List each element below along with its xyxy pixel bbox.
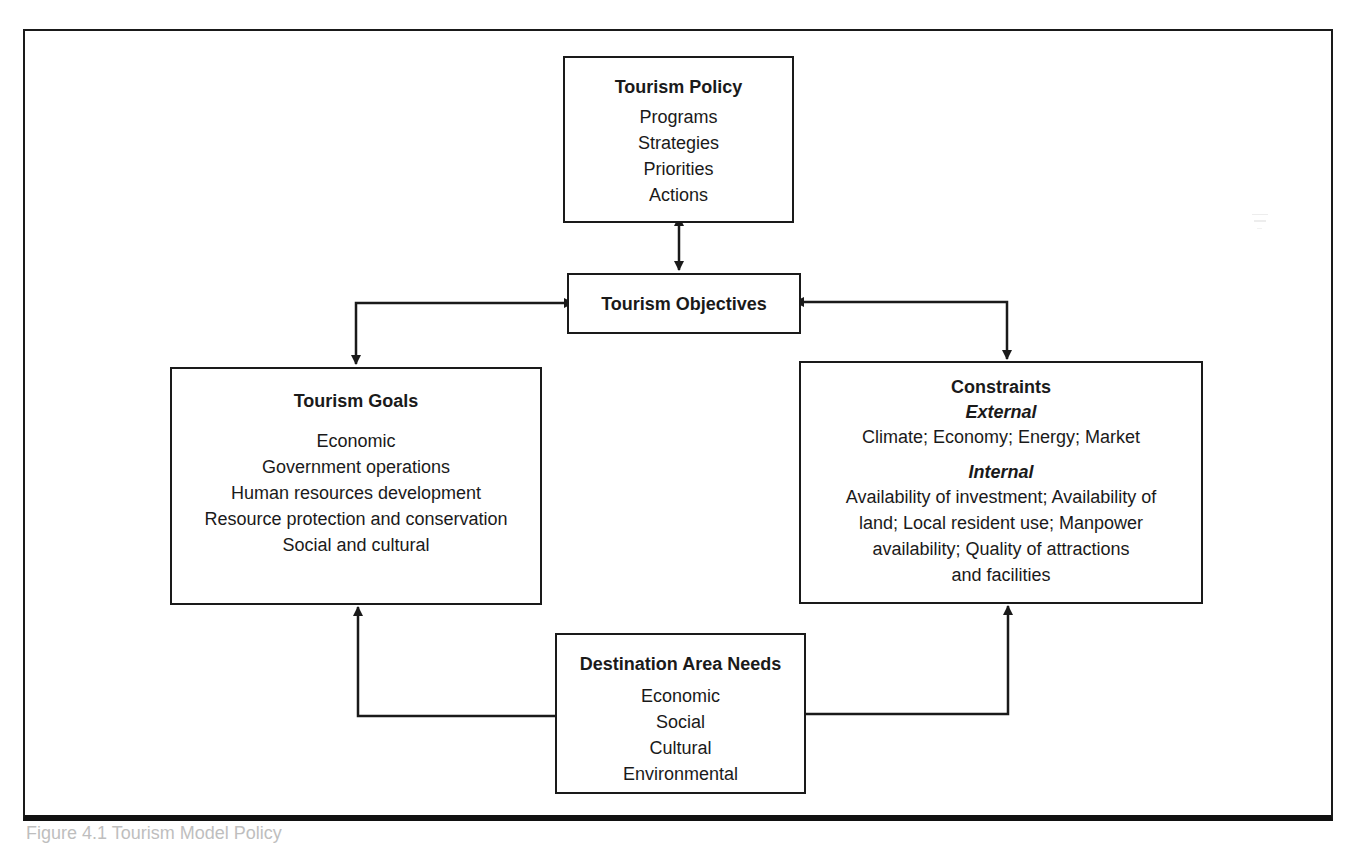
- policy-item: Strategies: [565, 130, 792, 156]
- constraints-box: Constraints External Climate; Economy; E…: [799, 361, 1203, 604]
- tourism-objectives-box: Tourism Objectives: [567, 273, 801, 334]
- needs-item: Environmental: [557, 761, 804, 787]
- needs-item: Social: [557, 709, 804, 735]
- internal-constraints-line: and facilities: [801, 562, 1201, 588]
- tourism-goals-box: Tourism Goals Economic Government operat…: [170, 367, 542, 605]
- internal-constraints-line: land; Local resident use; Manpower: [801, 510, 1201, 536]
- goal-item: Resource protection and conservation: [172, 506, 540, 532]
- policy-item: Programs: [565, 104, 792, 130]
- goal-item: Economic: [172, 428, 540, 454]
- tourism-policy-box: Tourism Policy Programs Strategies Prior…: [563, 56, 794, 223]
- policy-item: Priorities: [565, 156, 792, 182]
- external-constraints-label: External: [801, 400, 1201, 424]
- tourism-policy-title: Tourism Policy: [565, 76, 792, 98]
- internal-constraints-line: availability; Quality of attractions: [801, 536, 1201, 562]
- destination-area-needs-box: Destination Area Needs Economic Social C…: [555, 633, 806, 794]
- needs-item: Cultural: [557, 735, 804, 761]
- internal-constraints-label: Internal: [801, 460, 1201, 484]
- internal-constraints-line: Availability of investment; Availability…: [801, 484, 1201, 510]
- tourism-goals-title: Tourism Goals: [172, 390, 540, 412]
- external-constraints-text: Climate; Economy; Energy; Market: [801, 424, 1201, 450]
- goal-item: Human resources development: [172, 480, 540, 506]
- goal-item: Government operations: [172, 454, 540, 480]
- goal-item: Social and cultural: [172, 532, 540, 558]
- destination-area-needs-title: Destination Area Needs: [557, 653, 804, 675]
- constraints-title: Constraints: [801, 376, 1201, 398]
- figure-caption: Figure 4.1 Tourism Model Policy: [26, 822, 282, 844]
- needs-item: Economic: [557, 683, 804, 709]
- scan-artifact: [1252, 210, 1268, 234]
- tourism-objectives-title: Tourism Objectives: [569, 293, 799, 315]
- policy-item: Actions: [565, 182, 792, 208]
